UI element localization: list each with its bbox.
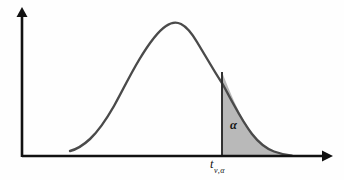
alpha-tail-shaded-region	[222, 72, 292, 156]
t-distribution-figure: α tν,α	[0, 0, 344, 180]
distribution-curve	[70, 23, 292, 156]
critical-value-base: t	[210, 157, 213, 171]
figure-canvas	[0, 0, 344, 180]
alpha-region-label: α	[230, 118, 237, 133]
x-axis-arrow-icon	[322, 151, 333, 162]
critical-value-label: tν,α	[210, 158, 224, 173]
y-axis-arrow-icon	[17, 7, 28, 17]
critical-value-subscript: ν,α	[214, 166, 225, 175]
